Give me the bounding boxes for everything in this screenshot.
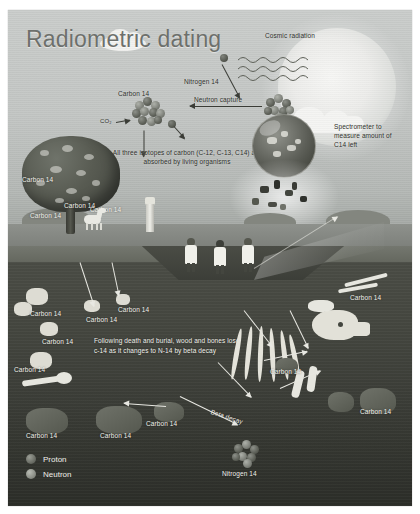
decay-note: Following death and burial, wood and bon… xyxy=(94,336,244,356)
carbon-label: Carbon 14 xyxy=(30,310,61,318)
neutron-dot-icon xyxy=(26,469,36,479)
fossil-fragment xyxy=(40,322,58,336)
lighthouse xyxy=(143,196,157,232)
carbon-label: Carbon 14 xyxy=(100,432,131,440)
carbon-label: Carbon 14 xyxy=(14,366,45,374)
scientist xyxy=(241,238,255,272)
nitrogen-14-underground-label: Nitrogen 14 xyxy=(222,470,257,478)
carbon-label: Carbon 14 xyxy=(26,432,57,440)
carbon-label: Carbon 14 xyxy=(270,368,301,376)
scientist xyxy=(184,238,198,272)
carbon-label: Carbon 14 xyxy=(42,338,73,346)
rock xyxy=(96,406,142,434)
carbon-label-right: Carbon 14 xyxy=(360,408,391,416)
carbon-label: Carbon 14 xyxy=(86,316,117,324)
legend-label: Proton xyxy=(43,455,67,464)
page-title: Radiometric dating xyxy=(26,26,221,53)
radiometric-dating-poster: Radiometric dating Cosmic radiation Nitr… xyxy=(0,0,420,514)
tree-crown xyxy=(22,136,120,212)
legend-label: Neutron xyxy=(43,470,71,479)
nitrogen-14-atom-underground xyxy=(230,438,264,468)
skull-frill xyxy=(308,300,334,312)
cosmic-radiation-waves xyxy=(236,54,316,84)
tree-carbon-label: Carbon 14 xyxy=(30,212,61,220)
carbon-label: Carbon 14 xyxy=(146,420,177,428)
co2-label: CO₂ xyxy=(100,118,112,126)
neutron-capture-label: Neutron capture xyxy=(194,96,242,104)
neutron-particle xyxy=(220,54,228,62)
neutron-capture-arrow xyxy=(190,106,262,107)
tree-carbon-label: Carbon 14 xyxy=(22,176,53,184)
carbon-14-atom xyxy=(130,96,166,128)
scientist xyxy=(213,240,227,274)
skull-snout xyxy=(344,322,370,336)
bone-joint xyxy=(56,372,72,384)
skull-eye xyxy=(338,322,343,327)
legend-item-proton: Proton xyxy=(26,454,71,464)
proton-dot-icon xyxy=(26,454,36,464)
carbon-14-sky-label: Carbon 14 xyxy=(118,90,149,98)
spectrometer-note: Spectrometer to measure amount of C14 le… xyxy=(334,122,400,149)
rock xyxy=(26,408,68,434)
nitrogen-14-label: Nitrogen 14 xyxy=(184,78,219,86)
deer xyxy=(82,208,106,230)
legend-item-neutron: Neutron xyxy=(26,469,71,479)
carbon-label: Carbon 14 xyxy=(118,306,149,314)
cosmic-radiation-label: Cosmic radiation xyxy=(264,32,316,40)
rock xyxy=(328,392,354,412)
carbon-label: Carbon 14 xyxy=(350,294,381,302)
legend: Proton Neutron xyxy=(26,454,71,484)
infographic-canvas: Radiometric dating Cosmic radiation Nitr… xyxy=(8,10,412,506)
